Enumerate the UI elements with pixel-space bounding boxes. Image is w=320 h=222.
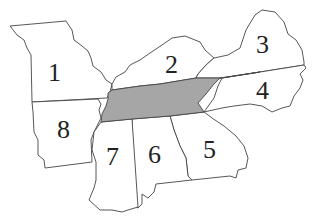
region-label-2: 2 [165,52,178,78]
region-label-3: 3 [256,32,269,58]
region-label-6: 6 [148,142,161,168]
map [0,0,320,222]
region-label-8: 8 [57,117,70,143]
region-label-4: 4 [256,78,269,104]
region-label-5: 5 [203,137,216,163]
region-label-7: 7 [106,144,119,170]
region-1 [10,21,112,102]
region-label-1: 1 [48,60,61,86]
